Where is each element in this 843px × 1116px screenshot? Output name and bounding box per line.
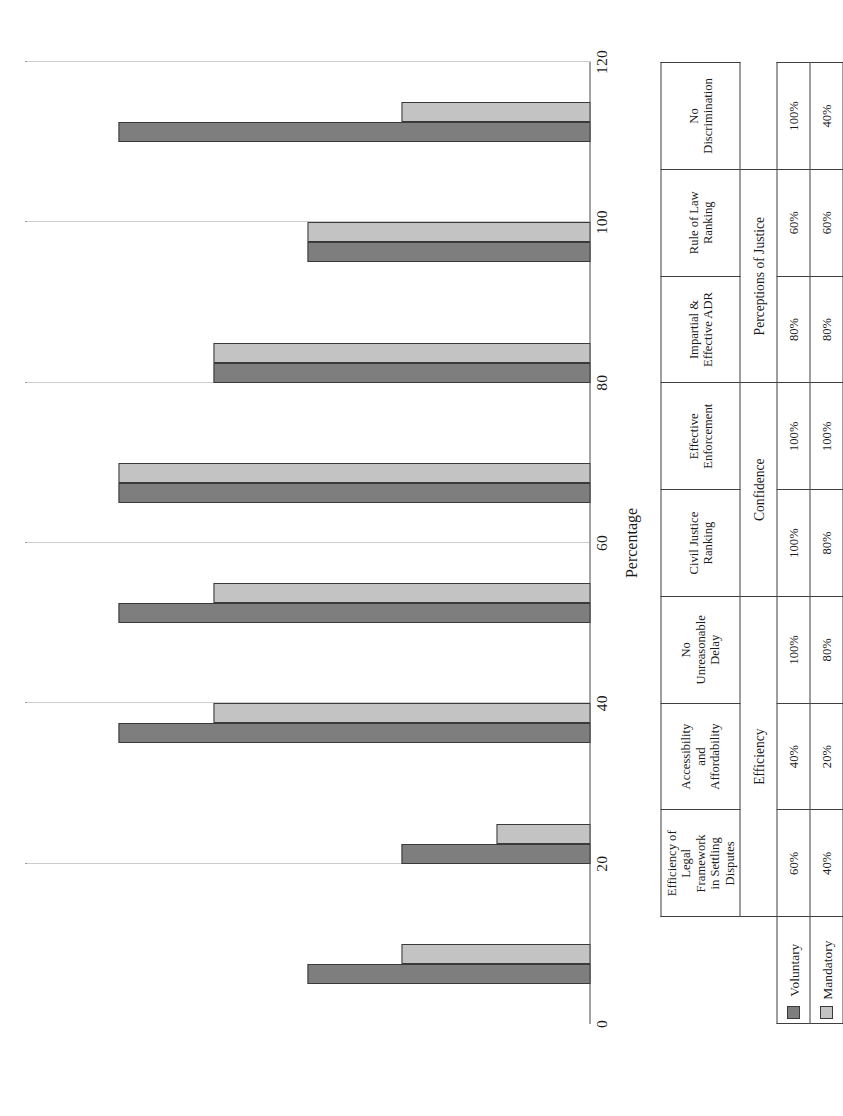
bar-mandatory xyxy=(401,944,590,964)
value-axis-title: Percentage xyxy=(622,62,640,1024)
table-header-row: Efficiency ofLegalFrameworkin SettlingDi… xyxy=(661,63,740,1024)
table-corner-blank xyxy=(661,917,740,1024)
table-row: Mandatory40%20%80%80%100%80%60%40% xyxy=(810,63,843,1024)
bar-mandatory xyxy=(496,824,590,844)
value-cell: 60% xyxy=(777,169,810,276)
bar-voluntary xyxy=(213,363,590,383)
value-cell: 100% xyxy=(777,383,810,490)
bars-layer xyxy=(24,62,590,1024)
bar-voluntary xyxy=(118,483,590,503)
group-header-cell: Efficiency xyxy=(740,596,777,916)
legend-swatch-mandatory xyxy=(820,1006,833,1019)
bar-group xyxy=(24,784,590,904)
table-group-row: EfficiencyConfidencePerceptions of Justi… xyxy=(740,63,777,1024)
group-header-cell: Perceptions of Justice xyxy=(740,169,777,383)
series-row-label: Voluntary xyxy=(777,917,810,1024)
value-tick-label: 0 xyxy=(592,1020,610,1028)
value-tick-label: 20 xyxy=(592,856,610,872)
value-cell: 60% xyxy=(777,810,810,917)
value-cell: 20% xyxy=(810,703,843,810)
value-cell: 100% xyxy=(777,596,810,703)
bar-mandatory xyxy=(118,463,590,483)
group-header-cell: Confidence xyxy=(740,383,777,597)
data-table-wrapper: Efficiency ofLegalFrameworkin SettlingDi… xyxy=(660,62,843,1024)
value-cell: 80% xyxy=(810,276,843,383)
bar-voluntary xyxy=(307,242,590,262)
value-cell: 80% xyxy=(810,596,843,703)
value-cell: 80% xyxy=(810,490,843,597)
value-tick-label: 100 xyxy=(592,210,610,234)
value-tick-label: 80 xyxy=(592,375,610,391)
category-header-cell: NoDiscrimination xyxy=(661,63,740,170)
value-cell: 60% xyxy=(810,169,843,276)
data-table: Efficiency ofLegalFrameworkin SettlingDi… xyxy=(660,62,843,1024)
value-cell: 100% xyxy=(810,383,843,490)
bar-group xyxy=(24,303,590,423)
category-header-cell: EffectiveEnforcement xyxy=(661,383,740,490)
category-header-cell: AccessibilityandAffordability xyxy=(661,703,740,810)
category-header-cell: Rule of LawRanking xyxy=(661,169,740,276)
bar-group xyxy=(24,423,590,543)
value-tick-label: 60 xyxy=(592,535,610,551)
value-cell: 40% xyxy=(810,63,843,170)
bar-voluntary xyxy=(401,844,590,864)
value-tick-label: 120 xyxy=(592,50,610,74)
value-cell: 40% xyxy=(777,703,810,810)
value-cell: 100% xyxy=(777,490,810,597)
legend-swatch-voluntary xyxy=(787,1006,800,1019)
bar-mandatory xyxy=(213,703,590,723)
category-header-cell: Impartial &Effective ADR xyxy=(661,276,740,383)
value-axis-ticks: 020406080100120 xyxy=(592,62,622,1024)
table-row: Voluntary60%40%100%100%100%80%60%100% xyxy=(777,63,810,1024)
category-header-cell: Efficiency ofLegalFrameworkin SettlingDi… xyxy=(661,810,740,917)
bar-voluntary xyxy=(118,723,590,743)
bar-group xyxy=(24,182,590,302)
bar-group xyxy=(24,62,590,182)
bar-group xyxy=(24,663,590,783)
bar-group xyxy=(24,904,590,1024)
bar-voluntary xyxy=(118,603,590,623)
value-cell: 80% xyxy=(777,276,810,383)
bar-voluntary xyxy=(118,122,590,142)
bar-mandatory xyxy=(401,102,590,122)
series-row-label: Mandatory xyxy=(810,917,843,1024)
bar-mandatory xyxy=(213,583,590,603)
category-header-cell: Civil JusticeRanking xyxy=(661,490,740,597)
table-corner-blank xyxy=(740,917,777,1024)
bar-voluntary xyxy=(307,964,590,984)
plot-area xyxy=(24,62,590,1024)
value-tick-label: 40 xyxy=(592,695,610,711)
value-cell: 40% xyxy=(810,810,843,917)
bar-mandatory xyxy=(213,343,590,363)
category-header-cell: NoUnreasonableDelay xyxy=(661,596,740,703)
bar-group xyxy=(24,543,590,663)
value-cell: 100% xyxy=(777,63,810,170)
bar-mandatory xyxy=(307,222,590,242)
